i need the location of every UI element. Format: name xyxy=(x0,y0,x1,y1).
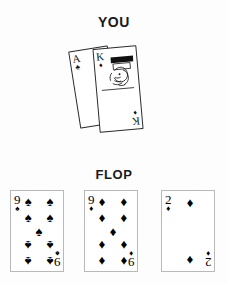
diamond-icon: ♦ xyxy=(206,249,210,257)
diamond-pip-icon: ♦ xyxy=(99,211,106,224)
card-corner-index-top-left: 9 ♦ xyxy=(88,193,95,213)
card-pip-area: ♦♦♦♦♦♦♦♦♦ xyxy=(97,195,129,267)
spade-pip-icon: ♠ xyxy=(25,254,32,267)
flop-cards-group: 9 ♠ 9 ♠ ♠♠♠♠♠♠♠♠♠ 9 ♦ 9 ♦ ♦♦♦♦♦♦♦♦♦ 2 ♦ … xyxy=(0,190,228,276)
diamond-icon: ♦ xyxy=(129,249,133,257)
card-corner-index-top-left: 9 ♠ xyxy=(14,193,21,213)
spade-pip-icon: ♠ xyxy=(25,211,32,224)
club-icon: ♣ xyxy=(75,63,81,71)
card-corner-index-top-left: A ♣ xyxy=(72,53,83,71)
diamond-pip-icon: ♦ xyxy=(187,253,194,266)
flop-card-nine-of-spades[interactable]: 9 ♠ 9 ♠ ♠♠♠♠♠♠♠♠♠ xyxy=(10,190,64,272)
card-corner-index-top-left: 2 ♦ xyxy=(165,193,172,213)
diamond-pip-icon: ♦ xyxy=(187,196,194,209)
card-pip-area: ♠♠♠♠♠♠♠♠♠ xyxy=(23,195,55,267)
spade-pip-icon: ♠ xyxy=(46,211,53,224)
spade-icon: ♠ xyxy=(55,249,59,257)
diamond-pip-icon: ♦ xyxy=(121,211,128,224)
hole-cards-group: A ♣ K ♦ K ♦ xyxy=(0,42,228,152)
spade-pip-icon: ♠ xyxy=(46,254,53,267)
spade-pip-icon: ♠ xyxy=(36,225,43,238)
spade-pip-icon: ♠ xyxy=(25,238,32,251)
diamond-pip-icon: ♦ xyxy=(99,195,106,208)
flop-section-label: FLOP xyxy=(0,167,228,182)
spade-pip-icon: ♠ xyxy=(46,238,53,251)
card-pip-area: ♦♦ xyxy=(174,195,206,267)
spade-pip-icon: ♠ xyxy=(46,195,53,208)
flop-card-nine-of-diamonds[interactable]: 9 ♦ 9 ♦ ♦♦♦♦♦♦♦♦♦ xyxy=(84,190,138,272)
diamond-pip-icon: ♦ xyxy=(121,195,128,208)
you-section-label: YOU xyxy=(0,14,228,30)
spade-pip-icon: ♠ xyxy=(25,195,32,208)
king-court-artwork xyxy=(97,50,139,129)
diamond-pip-icon: ♦ xyxy=(121,238,128,251)
diamond-pip-icon: ♦ xyxy=(121,254,128,267)
spade-icon: ♠ xyxy=(15,205,19,213)
diamond-pip-icon: ♦ xyxy=(99,238,106,251)
diamond-pip-icon: ♦ xyxy=(99,254,106,267)
diamond-icon: ♦ xyxy=(89,205,93,213)
hole-card-king-of-diamonds[interactable]: K ♦ K ♦ xyxy=(92,45,143,133)
diamond-icon: ♦ xyxy=(166,205,170,213)
flop-card-two-of-diamonds[interactable]: 2 ♦ 2 ♦ ♦♦ xyxy=(161,190,215,272)
diamond-pip-icon: ♦ xyxy=(110,225,117,238)
